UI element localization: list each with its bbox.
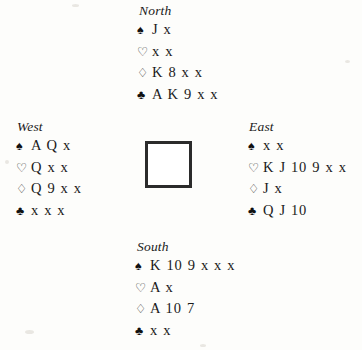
scan-speckle [25,330,34,334]
north-clubs-row: ♣ A K 9 x x [137,84,219,106]
hand-label-north: North [139,3,219,19]
south-hearts-cards: A x [150,277,174,299]
hand-north: North ♠ J x ♡ x x ♢ K 8 x x ♣ A K 9 x x [137,3,219,105]
hand-east: East ♠ x x ♡ K J 10 9 x x ♢ J x ♣ Q J 10 [248,119,347,221]
diamond-icon: ♢ [135,299,150,321]
center-square [145,141,192,188]
south-diamonds-row: ♢ A 10 7 [135,298,235,320]
north-spades-row: ♠ J x [137,19,219,41]
scan-speckle [200,344,206,347]
west-diamonds-cards: Q 9 x x [31,178,82,200]
hand-label-west: West [17,119,82,135]
south-spades-cards: K 10 9 x x x [150,255,235,277]
south-clubs-row: ♣ x x [135,320,235,342]
south-hearts-row: ♡ A x [135,277,235,299]
east-hearts-cards: K J 10 9 x x [263,157,347,179]
hand-label-south: South [137,239,235,255]
scan-speckle [345,60,350,63]
club-icon: ♣ [16,201,31,223]
south-spades-row: ♠ K 10 9 x x x [135,255,235,277]
club-icon: ♣ [135,321,150,343]
west-spades-cards: A Q x [31,135,71,157]
club-icon: ♣ [137,85,152,107]
diamond-icon: ♢ [16,179,31,201]
west-diamonds-row: ♢ Q 9 x x [16,178,82,200]
west-spades-row: ♠ A Q x [16,135,82,157]
diamond-icon: ♢ [248,179,263,201]
spade-icon: ♠ [137,20,152,42]
east-diamonds-cards: J x [263,178,283,200]
heart-icon: ♡ [135,278,150,300]
north-hearts-cards: x x [152,41,173,63]
scan-speckle [72,4,79,7]
hand-south: South ♠ K 10 9 x x x ♡ A x ♢ A 10 7 ♣ x … [135,239,235,341]
hand-west: West ♠ A Q x ♡ Q x x ♢ Q 9 x x ♣ x x x [16,119,82,221]
north-diamonds-cards: K 8 x x [152,62,203,84]
club-icon: ♣ [248,201,263,223]
east-spades-row: ♠ x x [248,135,347,157]
west-hearts-cards: Q x x [31,157,69,179]
spade-icon: ♠ [248,136,263,158]
heart-icon: ♡ [16,158,31,180]
spade-icon: ♠ [16,136,31,158]
east-clubs-row: ♣ Q J 10 [248,200,347,222]
east-diamonds-row: ♢ J x [248,178,347,200]
heart-icon: ♡ [248,158,263,180]
spade-icon: ♠ [135,256,150,278]
scan-speckle [5,160,9,164]
north-diamonds-row: ♢ K 8 x x [137,62,219,84]
south-clubs-cards: x x [150,320,171,342]
south-diamonds-cards: A 10 7 [150,298,195,320]
east-spades-cards: x x [263,135,284,157]
east-clubs-cards: Q J 10 [263,200,307,222]
hand-label-east: East [249,119,347,135]
diamond-icon: ♢ [137,63,152,85]
north-clubs-cards: A K 9 x x [152,84,219,106]
bridge-deal-diagram: North ♠ J x ♡ x x ♢ K 8 x x ♣ A K 9 x x … [0,0,362,350]
east-hearts-row: ♡ K J 10 9 x x [248,157,347,179]
west-hearts-row: ♡ Q x x [16,157,82,179]
west-clubs-row: ♣ x x x [16,200,82,222]
west-clubs-cards: x x x [31,200,66,222]
north-hearts-row: ♡ x x [137,41,219,63]
heart-icon: ♡ [137,42,152,64]
north-spades-cards: J x [152,19,172,41]
